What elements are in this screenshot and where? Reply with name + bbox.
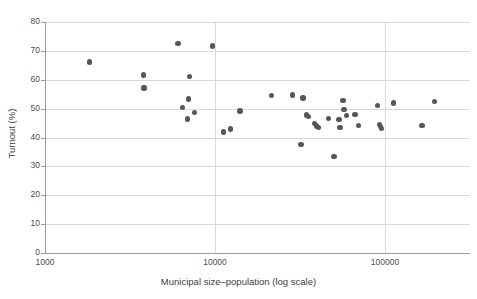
- gridline-horizontal: [45, 166, 470, 167]
- y-axis-tick-label: 10: [8, 219, 40, 228]
- data-point: [391, 100, 396, 105]
- y-axis-line: [45, 22, 46, 253]
- data-point: [187, 74, 192, 79]
- data-point: [141, 72, 146, 77]
- gridline-horizontal: [45, 22, 470, 23]
- data-point: [175, 41, 180, 46]
- data-point: [228, 126, 233, 131]
- gridline-horizontal: [45, 109, 470, 110]
- data-point: [192, 110, 197, 115]
- x-axis-tick-label: 1000: [36, 258, 55, 267]
- gridline-horizontal: [45, 224, 470, 225]
- data-point: [290, 92, 295, 97]
- data-point: [344, 113, 349, 118]
- y-axis-tick-mark: [41, 253, 45, 254]
- y-axis-tick-mark: [41, 80, 45, 81]
- y-axis-tick-label: 80: [8, 17, 40, 26]
- y-axis-tick-mark: [41, 224, 45, 225]
- data-point: [375, 103, 380, 108]
- data-point: [432, 99, 437, 104]
- gridline-vertical: [215, 22, 216, 253]
- y-axis-tick-mark: [41, 51, 45, 52]
- data-point: [356, 123, 361, 128]
- x-axis-line: [45, 253, 470, 254]
- data-point: [141, 85, 146, 90]
- data-point: [340, 98, 345, 103]
- x-axis-title: Municipal size–population (log scale): [0, 276, 477, 287]
- y-axis-tick-label: 70: [8, 46, 40, 55]
- data-point: [221, 129, 226, 134]
- y-axis-tick-label: 60: [8, 75, 40, 84]
- data-point: [352, 112, 357, 117]
- gridline-vertical: [385, 22, 386, 253]
- data-point: [237, 108, 242, 113]
- gridline-horizontal: [45, 195, 470, 196]
- data-point: [300, 95, 305, 100]
- data-point: [306, 114, 311, 119]
- y-axis-tick-mark: [41, 195, 45, 196]
- data-point: [379, 126, 384, 131]
- data-point: [316, 125, 321, 130]
- y-axis-tick-label: 20: [8, 190, 40, 199]
- data-point: [326, 116, 331, 121]
- y-axis-tick-mark: [41, 109, 45, 110]
- gridline-horizontal: [45, 80, 470, 81]
- y-axis-tick-mark: [41, 22, 45, 23]
- data-point: [298, 142, 303, 147]
- data-point: [185, 116, 190, 121]
- x-axis-tick-label: 100000: [371, 258, 399, 267]
- gridline-horizontal: [45, 138, 470, 139]
- data-point: [336, 117, 341, 122]
- data-point: [186, 96, 191, 101]
- gridline-horizontal: [45, 51, 470, 52]
- y-axis-tick-mark: [41, 166, 45, 167]
- y-axis-tick-mark: [41, 138, 45, 139]
- data-point: [419, 123, 424, 128]
- data-point: [269, 93, 274, 98]
- data-point: [337, 125, 342, 130]
- plot-area: [45, 22, 470, 253]
- data-point: [331, 154, 336, 159]
- y-axis-title: Turnout (%): [6, 94, 17, 174]
- data-point: [341, 107, 346, 112]
- data-point: [87, 59, 92, 64]
- x-axis-tick-label: 10000: [203, 258, 227, 267]
- y-axis-tick-label: 0: [8, 248, 40, 257]
- scatter-chart: 01020304050607080 100010000100000 Turnou…: [0, 0, 477, 299]
